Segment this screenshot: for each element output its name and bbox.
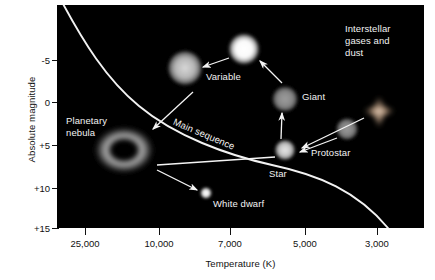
y-tick-label: +15 (34, 223, 50, 234)
arrow-giant-to-supergiant (260, 61, 282, 83)
x-tick-label: 3,000 (365, 238, 389, 249)
arrow-supergiant-to-variable (203, 58, 229, 67)
label-interstellar-line1: Interstellar (345, 23, 391, 35)
label-protostar: Protostar (311, 147, 350, 159)
object-variable-star (166, 49, 204, 87)
y-axis-title: Absolute magnitude (26, 40, 37, 200)
x-tick-mark (85, 228, 86, 235)
hr-diagram-figure: Absolute magnitude -5 0 +5 +10 +15 25,00… (0, 0, 435, 280)
object-white-dwarf (200, 187, 212, 199)
x-tick-mark (159, 228, 160, 235)
x-tick-label: 10,000 (144, 238, 173, 249)
x-tick-mark (377, 228, 378, 235)
object-supergiant-star (227, 32, 261, 66)
label-interstellar-line2: gases and (345, 35, 390, 47)
x-axis-title: Temperature (K) (57, 258, 424, 269)
y-tick-label: -5 (42, 55, 50, 66)
arrow-nebula-to-white-dwarf (157, 170, 197, 190)
y-tick-label: +10 (34, 183, 50, 194)
object-giant-star (271, 85, 299, 113)
object-protostar (335, 117, 359, 141)
label-planetary-nebula-line2: nebula (66, 127, 95, 139)
label-interstellar-line3: dust (345, 47, 363, 59)
x-tick-label: 7,000 (218, 238, 242, 249)
object-interstellar-nebula (361, 94, 397, 130)
plot-area: Variable Giant Protostar Star Main seque… (57, 5, 424, 228)
x-tick-mark (305, 228, 306, 235)
label-star: Star (269, 168, 287, 180)
object-planetary-nebula (93, 126, 155, 174)
main-sequence-curve (62, 5, 388, 228)
x-tick-mark (230, 228, 231, 235)
arrow-star-to-giant (281, 113, 282, 139)
y-tick-label: +5 (39, 140, 50, 151)
label-variable: Variable (206, 71, 241, 83)
label-planetary-nebula-line1: Planetary (66, 115, 107, 127)
x-tick-label: 5,000 (293, 238, 317, 249)
label-giant: Giant (302, 91, 325, 103)
x-tick-label: 25,000 (70, 238, 99, 249)
y-tick-label: 0 (45, 97, 50, 108)
label-white-dwarf: White dwarf (213, 198, 264, 210)
object-star (274, 139, 296, 161)
